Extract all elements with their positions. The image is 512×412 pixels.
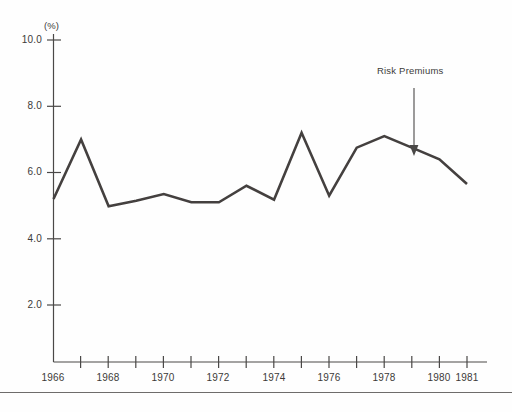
x-tick-label-1978: 1978 — [364, 372, 404, 383]
y-tick-label-10: 10.0 — [8, 34, 42, 45]
risk-premiums-line-chart — [0, 0, 512, 412]
x-tick-label-1966: 1966 — [33, 372, 73, 383]
y-tick-label-2: 2.0 — [8, 299, 42, 310]
x-tick-label-1972: 1972 — [198, 372, 238, 383]
footer-divider — [0, 392, 512, 393]
x-tick-label-1968: 1968 — [88, 372, 128, 383]
y-axis-unit-label: (%) — [44, 20, 59, 31]
x-tick-label-1981: 1981 — [447, 372, 487, 383]
chart-figure: (%) 10.0 8.0 6.0 4.0 2.0 1966 1968 1970 … — [0, 0, 512, 412]
x-tick-label-1974: 1974 — [254, 372, 294, 383]
data-line-risk-premiums — [54, 133, 468, 207]
x-tick-label-1976: 1976 — [309, 372, 349, 383]
x-tick-label-1970: 1970 — [143, 372, 183, 383]
y-tick-label-8: 8.0 — [8, 100, 42, 111]
annotation-risk-premiums-label: Risk Premiums — [377, 65, 443, 76]
y-tick-label-6: 6.0 — [8, 166, 42, 177]
annotation-arrow-icon — [410, 88, 419, 156]
y-tick-label-4: 4.0 — [8, 233, 42, 244]
